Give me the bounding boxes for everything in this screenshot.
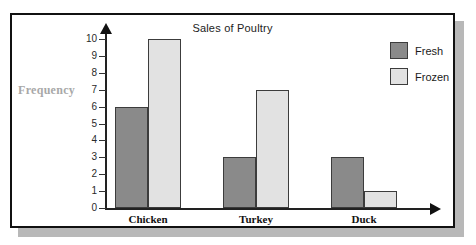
- x-axis-label-turkey: Turkey: [211, 213, 301, 225]
- y-axis-tick-mark: [99, 157, 106, 158]
- y-axis-tick-mark: [99, 56, 106, 57]
- y-axis-tick-label: 10: [75, 33, 97, 44]
- x-axis-label-duck: Duck: [319, 213, 409, 225]
- y-axis-tick-label: 5: [75, 118, 97, 129]
- y-axis-tick-label: 1: [75, 185, 97, 196]
- legend-label-frozen: Frozen: [415, 71, 449, 83]
- y-axis-line: [105, 33, 107, 210]
- y-axis-tick-label: 0: [75, 202, 97, 213]
- y-axis-tick-mark: [99, 140, 106, 141]
- chart-screenshot: Sales of Poultry Frequency 109876543210 …: [0, 0, 476, 245]
- arrow-right-icon: [430, 203, 441, 215]
- legend-swatch-frozen: [390, 68, 408, 85]
- chart-frame: Sales of Poultry Frequency 109876543210 …: [10, 13, 455, 228]
- y-axis-tick-mark: [99, 39, 106, 40]
- x-axis-label-chicken: Chicken: [103, 213, 193, 225]
- legend-label-fresh: Fresh: [415, 45, 443, 57]
- y-axis-tick-mark: [99, 174, 106, 175]
- bar-duck-frozen: [364, 191, 397, 208]
- y-axis-label: Frequency: [18, 83, 75, 98]
- y-axis-tick-mark: [99, 73, 106, 74]
- legend-item-frozen: Frozen: [390, 68, 449, 85]
- x-axis-line: [105, 208, 432, 210]
- y-axis-tick-label: 6: [75, 101, 97, 112]
- y-axis-tick-label: 3: [75, 151, 97, 162]
- y-axis-tick-mark: [99, 208, 106, 209]
- y-axis-tick-mark: [99, 191, 106, 192]
- y-axis-tick-label: 8: [75, 67, 97, 78]
- bar-chicken-fresh: [115, 107, 148, 208]
- y-axis-tick-mark: [99, 90, 106, 91]
- legend-swatch-fresh: [390, 42, 408, 59]
- arrow-up-icon: [100, 23, 112, 34]
- bar-duck-fresh: [331, 157, 364, 208]
- y-axis-tick-mark: [99, 107, 106, 108]
- y-axis-tick-label: 9: [75, 50, 97, 61]
- plot-area: Sales of Poultry Frequency 109876543210 …: [12, 15, 453, 226]
- y-axis-tick-mark: [99, 124, 106, 125]
- bar-turkey-fresh: [223, 157, 256, 208]
- y-axis-tick-label: 2: [75, 168, 97, 179]
- chart-legend: Fresh Frozen: [390, 42, 449, 94]
- legend-item-fresh: Fresh: [390, 42, 449, 59]
- y-axis-tick-label: 7: [75, 84, 97, 95]
- bar-chicken-frozen: [148, 39, 181, 208]
- bar-turkey-frozen: [256, 90, 289, 208]
- y-axis-tick-label: 4: [75, 134, 97, 145]
